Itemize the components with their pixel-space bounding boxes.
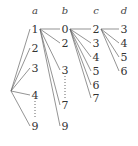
node-c-5: 5: [93, 65, 100, 78]
edge: [70, 29, 91, 98]
column-header-c: c: [93, 5, 99, 16]
node-a-3: 3: [32, 62, 39, 75]
edge: [40, 29, 60, 126]
edge: [101, 29, 119, 57]
node-c-2: 2: [93, 23, 100, 36]
node-a-1: 1: [32, 23, 39, 36]
node-d-3: 3: [121, 23, 128, 36]
edge: [40, 29, 60, 70]
node-c-6: 6: [93, 79, 100, 92]
tree-diagram-svg: a12349b02379c234567d3456: [0, 0, 138, 146]
node-d-4: 4: [121, 37, 128, 50]
node-a-4: 4: [32, 89, 39, 102]
node-a-9: 9: [32, 120, 39, 133]
edge: [11, 68, 30, 91]
column-header-a: a: [32, 5, 38, 16]
edge: [40, 29, 60, 105]
column-header-b: b: [62, 5, 68, 16]
edge: [11, 29, 30, 91]
edge: [11, 91, 30, 126]
node-d-6: 6: [121, 65, 128, 78]
node-b-7: 7: [62, 99, 69, 112]
edge: [70, 29, 91, 57]
node-b-3: 3: [62, 64, 69, 77]
edge: [11, 91, 30, 95]
column-header-d: d: [121, 5, 127, 16]
node-c-4: 4: [93, 51, 100, 64]
node-b-9: 9: [62, 120, 69, 133]
node-a-2: 2: [32, 42, 39, 55]
node-d-5: 5: [121, 51, 128, 64]
edge: [70, 29, 91, 85]
node-b-0: 0: [62, 23, 69, 36]
node-b-2: 2: [62, 37, 69, 50]
edge: [101, 29, 119, 71]
edge: [11, 48, 30, 91]
node-c-3: 3: [93, 37, 100, 50]
tree-diagram: a12349b02379c234567d3456: [0, 0, 138, 146]
node-c-7: 7: [93, 92, 100, 105]
